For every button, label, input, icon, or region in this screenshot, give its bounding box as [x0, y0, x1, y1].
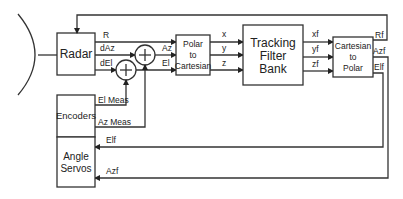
cartesian-to-polar-block: Cartesian to Polar	[333, 37, 373, 77]
p2c-label-line1: Polar	[183, 39, 203, 49]
rf-feedback-line	[77, 15, 387, 40]
xf-signal-label: xf	[312, 29, 319, 39]
radar-block: Radar	[57, 33, 95, 75]
del-signal-label: dEl	[100, 58, 112, 68]
azf-servo-label: Azf	[106, 166, 119, 176]
az-summing-junction	[135, 45, 155, 65]
c2p-label-line2: to	[349, 52, 356, 62]
z-signal-label: z	[222, 58, 226, 68]
tfb-label-line3: Bank	[259, 62, 287, 76]
y-signal-label: y	[222, 43, 227, 53]
daz-signal-label: dAz	[100, 43, 115, 53]
el-meas-label: El Meas	[98, 95, 129, 105]
servos-label-line1: Angle	[63, 151, 89, 162]
tracking-filter-bank-block: Tracking Filter Bank	[243, 25, 303, 85]
az-meas-label: Az Meas	[98, 117, 131, 127]
servos-label-line2: Servos	[60, 163, 91, 174]
az-signal-label: Az	[162, 43, 172, 53]
el-summing-junction	[116, 60, 136, 80]
c2p-label-line3: Polar	[343, 63, 363, 73]
polar-to-cartesian-block: Polar to Cartesian	[175, 35, 212, 75]
encoders-label: Encoders	[56, 110, 96, 121]
el-signal-label: El	[162, 58, 170, 68]
zf-signal-label: zf	[312, 59, 319, 69]
rf-signal-label: Rf	[375, 30, 384, 40]
block-diagram: Radar R dAz dEl Az El Polar to Cartesian…	[0, 0, 403, 199]
c2p-label-line1: Cartesian	[335, 41, 372, 51]
elf-signal-label: Elf	[374, 62, 385, 72]
r-signal-label: R	[103, 30, 109, 40]
yf-signal-label: yf	[312, 44, 319, 54]
tfb-label-line1: Tracking	[250, 36, 296, 50]
p2c-label-line3: Cartesian	[175, 61, 212, 71]
antenna-dish-icon	[18, 14, 35, 95]
encoders-block: Encoders	[56, 95, 96, 137]
angle-servos-block: Angle Servos	[57, 137, 95, 187]
elf-feedback-line	[95, 73, 383, 147]
elf-servo-label: Elf	[106, 135, 117, 145]
radar-label: Radar	[60, 47, 93, 61]
x-signal-label: x	[222, 29, 227, 39]
tfb-label-line2: Filter	[260, 49, 287, 63]
p2c-label-line2: to	[189, 50, 196, 60]
azf-signal-label: Azf	[373, 46, 386, 56]
